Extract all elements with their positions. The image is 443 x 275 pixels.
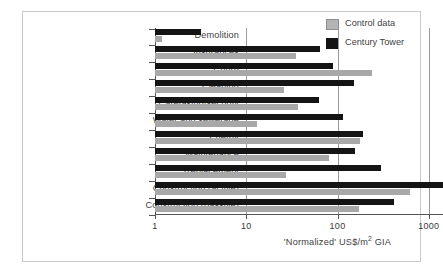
- x-tick-label-1000: 1000: [409, 221, 443, 231]
- bar: [155, 155, 329, 161]
- chart-frame: Control data Century Tower 1101001000100…: [22, 11, 421, 262]
- bar: [155, 172, 286, 178]
- x-tick-1: [155, 214, 156, 219]
- bar: [155, 87, 284, 93]
- bar: [155, 104, 298, 110]
- y-tick: [149, 215, 155, 216]
- plot-area: 110100100010000 DemolitionInsurancesChur…: [133, 20, 410, 214]
- x-axis-title-prefix: 'Normalized' US$/m: [284, 237, 368, 247]
- category-label: Demolition: [195, 30, 239, 40]
- bar: [155, 189, 410, 195]
- x-tick-label-10: 10: [226, 221, 266, 231]
- x-axis-title-suffix: GIA: [372, 237, 391, 247]
- x-tick-label-1: 1: [135, 221, 175, 231]
- x-tick-1000: [429, 214, 430, 219]
- bar: [155, 53, 296, 59]
- bar: [155, 80, 354, 86]
- x-tick-100: [338, 214, 339, 219]
- bar: [155, 29, 201, 35]
- bar: [155, 97, 319, 103]
- bar: [155, 148, 355, 154]
- bar: [155, 121, 257, 127]
- bar: [155, 131, 363, 137]
- bar: [155, 63, 333, 69]
- bar: [155, 70, 372, 76]
- x-tick-label-100: 100: [318, 221, 358, 231]
- bar: [155, 182, 443, 188]
- bar: [155, 114, 343, 120]
- bar: [155, 46, 320, 52]
- x-axis-line: [155, 214, 443, 215]
- bar: [155, 206, 359, 212]
- x-axis-title: 'Normalized' US$/m2 GIA: [155, 235, 443, 247]
- bar: [155, 165, 381, 171]
- bar: [155, 138, 360, 144]
- bar: [155, 36, 162, 42]
- bar: [155, 199, 394, 205]
- x-tick-10: [246, 214, 247, 219]
